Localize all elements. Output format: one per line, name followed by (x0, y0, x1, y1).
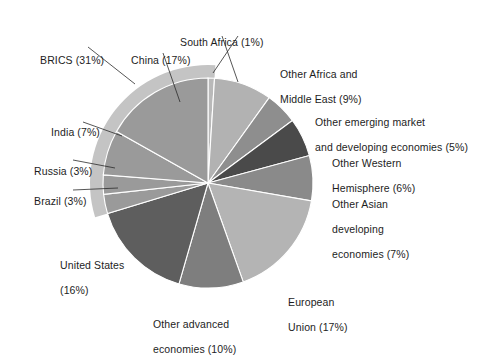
label-russia-line1: Russia (3%) (34, 165, 92, 177)
label-other-advanced-line2: economies (10%) (153, 343, 236, 355)
label-other-africa-line2: Middle East (9%) (280, 93, 362, 105)
label-india: India (7%) (39, 113, 100, 151)
label-other-advanced: Other advanced economies (10%) (141, 305, 236, 359)
label-other-africa-line1: Other Africa and (280, 68, 357, 80)
label-brics: BRICS (31%) (28, 41, 104, 79)
label-south-africa-line1: South Africa (1%) (180, 36, 263, 48)
label-other-western-line2: Hemisphere (6%) (332, 182, 415, 194)
label-united-states-line2: (16%) (60, 284, 89, 296)
label-south-africa: South Africa (1%) (168, 23, 263, 61)
label-european-union-line2: Union (17%) (288, 321, 347, 333)
label-brazil-line1: Brazil (3%) (34, 195, 86, 207)
label-european-union: European Union (17%) (276, 283, 348, 346)
label-other-advanced-line1: Other advanced (153, 318, 229, 330)
label-other-asian-line3: economies (7%) (332, 248, 409, 260)
label-brazil: Brazil (3%) (22, 182, 87, 220)
label-united-states-line1: United States (60, 259, 124, 271)
label-other-emerging-line2: and developing economies (5%) (315, 141, 468, 153)
label-brics-line1: BRICS (31%) (40, 54, 104, 66)
label-other-africa: Other Africa and Middle East (9%) (268, 55, 362, 118)
label-united-states: United States (16%) (48, 246, 124, 309)
label-other-asian-line2: developing (332, 223, 384, 235)
label-european-union-line1: European (288, 296, 334, 308)
label-india-line1: India (7%) (51, 126, 100, 138)
